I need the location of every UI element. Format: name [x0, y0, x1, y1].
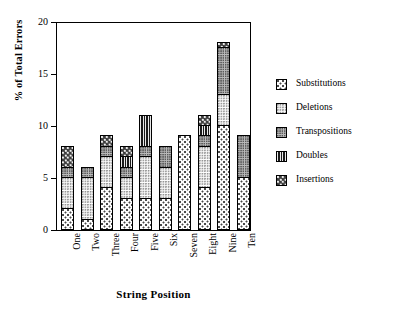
legend-label: Insertions [296, 175, 333, 185]
y-tick-label: 15 [38, 69, 48, 79]
legend-item-doubles[interactable]: Doubles [276, 144, 391, 168]
x-tick-label-seven: Seven [188, 233, 199, 257]
bar-segment-deletions [100, 156, 113, 188]
plot-area: 05101520 [56, 22, 251, 231]
legend-swatch-insertions [276, 175, 287, 186]
legend-item-substitutions[interactable]: Substitutions [276, 72, 391, 96]
bar-segment-transpositions [159, 146, 172, 168]
bar-segment-transpositions [139, 146, 152, 157]
bar-segment-transpositions [81, 167, 94, 178]
bar-segment-transpositions [100, 146, 113, 157]
x-tick-label-eight: Eight [207, 233, 218, 255]
bar-nine[interactable] [217, 22, 230, 230]
legend-item-transpositions[interactable]: Transpositions [276, 120, 391, 144]
bar-segment-transpositions [61, 167, 74, 178]
bar-one[interactable] [61, 22, 74, 230]
bar-segment-doubles [139, 115, 152, 147]
bar-three[interactable] [100, 22, 113, 230]
bar-segment-transpositions [198, 135, 211, 146]
bar-four[interactable] [120, 22, 133, 230]
legend-label: Transpositions [296, 127, 352, 137]
y-tick-label: 20 [38, 17, 48, 27]
legend-swatch-transpositions [276, 127, 287, 138]
bar-segment-substitutions [159, 198, 172, 230]
x-tick-label-nine: Nine [227, 233, 238, 252]
bar-eight[interactable] [198, 22, 211, 230]
bar-segment-doubles [198, 125, 211, 136]
legend-label: Doubles [296, 151, 328, 161]
bar-segment-deletions [81, 177, 94, 220]
x-axis-tick-labels: OneTwoThreeFourFiveSixSevenEightNineTen [56, 233, 251, 283]
y-tick-label: 10 [38, 121, 48, 131]
x-tick-label-one: One [71, 233, 82, 250]
bar-segment-transpositions [120, 167, 133, 178]
x-tick-label-six: Six [168, 233, 179, 246]
legend-swatch-doubles [276, 151, 287, 162]
bar-group [56, 22, 251, 230]
bar-segment-substitutions [100, 187, 113, 230]
bar-segment-deletions [139, 156, 152, 199]
legend-item-deletions[interactable]: Deletions [276, 96, 391, 120]
bar-segment-insertions [100, 135, 113, 146]
bar-segment-substitutions [178, 135, 191, 230]
bar-segment-substitutions [198, 187, 211, 230]
x-tick-label-three: Three [110, 233, 121, 256]
x-tick-label-five: Five [149, 233, 160, 251]
bar-segment-insertions [120, 146, 133, 157]
legend-item-insertions[interactable]: Insertions [276, 168, 391, 192]
bar-segment-deletions [217, 94, 230, 126]
x-axis-title: String Position [56, 288, 251, 300]
chart-figure: % of Total Errors 05101520 OneTwoThreeFo… [0, 0, 393, 314]
bar-segment-transpositions [237, 135, 250, 178]
bar-segment-insertions [198, 115, 211, 126]
legend-swatch-deletions [276, 103, 287, 114]
bar-segment-transpositions [217, 47, 230, 95]
bar-segment-substitutions [139, 198, 152, 230]
bar-six[interactable] [159, 22, 172, 230]
chart-legend: SubstitutionsDeletionsTranspositionsDoub… [276, 72, 391, 192]
bar-segment-doubles [120, 156, 133, 167]
x-axis-line [56, 230, 251, 231]
bar-segment-deletions [61, 177, 74, 209]
legend-label: Deletions [296, 103, 332, 113]
bar-seven[interactable] [178, 22, 191, 230]
x-tick-label-four: Four [129, 233, 140, 252]
y-tick-label: 5 [43, 173, 48, 183]
x-tick-label-two: Two [90, 233, 101, 251]
legend-swatch-substitutions [276, 79, 287, 90]
x-tick-label-ten: Ten [246, 233, 257, 248]
bar-segment-deletions [159, 167, 172, 199]
bar-segment-deletions [198, 146, 211, 189]
bar-segment-substitutions [120, 198, 133, 230]
legend-label: Substitutions [296, 79, 346, 89]
bar-segment-substitutions [217, 125, 230, 230]
bar-segment-insertions [217, 42, 230, 48]
bar-segment-insertions [61, 146, 74, 168]
bar-ten[interactable] [237, 22, 250, 230]
bar-segment-substitutions [237, 177, 250, 230]
y-tick-label: 0 [43, 225, 48, 235]
bar-segment-substitutions [61, 208, 74, 230]
bar-segment-substitutions [81, 219, 94, 230]
bar-five[interactable] [139, 22, 152, 230]
bar-two[interactable] [81, 22, 94, 230]
y-axis-title: % of Total Errors [13, 0, 24, 131]
y-tick [51, 230, 56, 231]
bar-segment-deletions [120, 177, 133, 199]
